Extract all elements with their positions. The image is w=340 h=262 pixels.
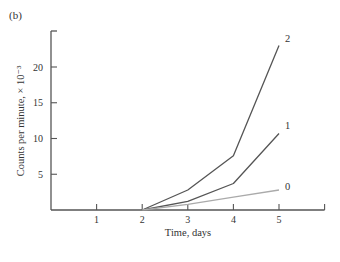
x-tick-label: 5 <box>277 214 282 225</box>
series-line-1 <box>142 134 279 211</box>
series-lines: 210 <box>142 33 290 210</box>
x-tick-label: 4 <box>231 214 236 225</box>
y-axis-title: Counts per minute, × 10⁻³ <box>15 66 26 177</box>
series-line-2 <box>142 46 279 211</box>
x-tick-label: 1 <box>94 214 99 225</box>
x-tick-label: 3 <box>185 214 190 225</box>
series-label-2: 2 <box>285 33 290 44</box>
series-label-0: 0 <box>285 181 290 192</box>
y-tick-label: 15 <box>33 97 43 108</box>
x-tick-label: 2 <box>140 214 145 225</box>
series-label-1: 1 <box>285 120 290 131</box>
x-axis-title: Time, days <box>165 227 211 238</box>
y-tick-label: 5 <box>38 169 43 180</box>
y-tick-label: 10 <box>33 133 43 144</box>
y-tick-label: 20 <box>33 62 43 73</box>
axes: 123455101520 <box>33 31 325 225</box>
line-chart: 123455101520 210 Time, days Counts per m… <box>0 0 340 262</box>
